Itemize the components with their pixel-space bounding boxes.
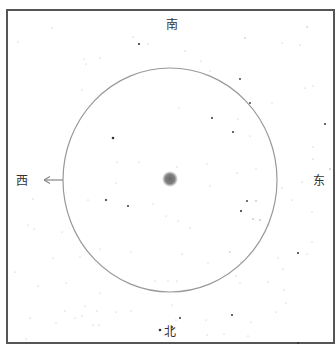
star (208, 263, 209, 264)
star (62, 232, 63, 233)
direction-south-label: 南 (164, 18, 180, 32)
star (312, 158, 313, 159)
star (201, 61, 202, 62)
star (240, 283, 241, 284)
star (100, 249, 101, 250)
star (139, 162, 140, 163)
zenith-marker (162, 171, 178, 187)
star (100, 293, 101, 294)
star (297, 342, 299, 344)
star (236, 172, 237, 173)
star (250, 136, 251, 137)
star (313, 86, 314, 87)
star (177, 281, 178, 282)
star (249, 102, 251, 104)
direction-west-label: 西 (14, 174, 30, 188)
star (166, 216, 167, 217)
star (256, 169, 257, 170)
star (292, 200, 293, 201)
star (82, 316, 83, 317)
star (178, 221, 179, 222)
star-chart (0, 0, 336, 354)
star (28, 225, 29, 226)
star (211, 117, 213, 119)
star (15, 272, 16, 273)
star (66, 283, 67, 284)
star (131, 252, 132, 253)
star (229, 251, 230, 252)
star (224, 334, 225, 335)
star (99, 325, 100, 326)
star (148, 44, 149, 45)
star (306, 26, 307, 27)
star (127, 205, 129, 207)
star (97, 311, 98, 312)
star (190, 228, 191, 229)
star (259, 219, 261, 221)
star (132, 36, 133, 37)
star (26, 339, 27, 340)
star (131, 311, 132, 312)
star (207, 335, 208, 336)
star (248, 336, 249, 337)
star (80, 257, 81, 258)
star (82, 90, 83, 91)
star (85, 306, 86, 307)
star (88, 200, 89, 201)
star (278, 258, 279, 259)
star (56, 323, 57, 324)
star (236, 276, 237, 277)
star (297, 252, 299, 254)
star (329, 168, 331, 170)
star (232, 131, 234, 133)
star (244, 37, 245, 38)
star (324, 123, 326, 125)
star (176, 320, 177, 321)
star (252, 218, 254, 220)
star (207, 164, 208, 165)
star (53, 258, 54, 259)
star (210, 71, 211, 72)
star (65, 311, 66, 312)
star (313, 147, 314, 148)
star (177, 167, 178, 168)
star (210, 186, 211, 187)
star (255, 200, 257, 202)
star (116, 312, 117, 313)
star (283, 269, 284, 270)
star (179, 108, 180, 109)
star (305, 88, 306, 89)
direction-east-label: 东 (311, 174, 327, 188)
star (93, 325, 94, 326)
star (312, 242, 313, 243)
star (231, 314, 233, 316)
star (138, 43, 140, 45)
star (172, 305, 173, 306)
star (34, 229, 35, 230)
star (84, 59, 85, 60)
star (302, 182, 303, 183)
star (241, 262, 242, 263)
star (286, 303, 287, 304)
star (168, 281, 169, 282)
star (179, 317, 181, 319)
direction-north-label: 北 (162, 325, 178, 339)
star (117, 162, 118, 163)
star (282, 188, 283, 189)
star (159, 329, 162, 332)
star (268, 282, 269, 283)
star (307, 254, 308, 255)
star (33, 199, 34, 200)
star (18, 42, 19, 43)
star (30, 318, 31, 319)
star (299, 44, 300, 45)
star (240, 210, 242, 212)
star (116, 183, 117, 184)
star (86, 64, 87, 65)
star (284, 290, 285, 291)
star (153, 204, 154, 205)
star (246, 200, 248, 202)
star (251, 322, 252, 323)
star (51, 27, 52, 28)
star (312, 212, 313, 213)
